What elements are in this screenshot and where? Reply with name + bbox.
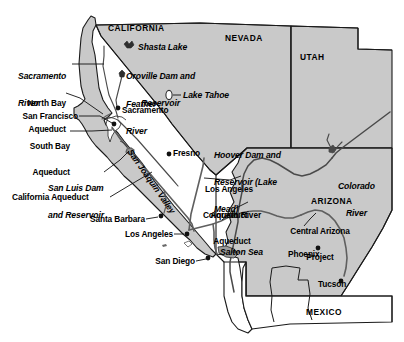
feature-label-lake-tahoe: Lake Tahoe bbox=[183, 91, 229, 100]
dot-san-francisco bbox=[112, 122, 117, 127]
dot-sacramento bbox=[116, 106, 121, 111]
city-label-san-diego: San Diego bbox=[130, 257, 195, 266]
feather-river-line bbox=[116, 76, 122, 107]
dot-santa-barbara bbox=[159, 214, 164, 219]
city-label-tucson: Tucson bbox=[318, 280, 346, 289]
map-container: CALIFORNIA NEVADA UTAH ARIZONA MEXICO Sa… bbox=[0, 0, 404, 342]
city-label-san-francisco: San Francisco bbox=[0, 112, 78, 121]
city-label-fresno: Fresno bbox=[173, 149, 200, 158]
state-label-california: CALIFORNIA bbox=[108, 24, 165, 33]
state-label-mexico: MEXICO bbox=[306, 308, 342, 317]
city-label-los-angeles: Los Angeles bbox=[100, 230, 173, 239]
aqueduct-label-colorado-river: Colorado River Aqueduct bbox=[194, 194, 270, 263]
aqueduct-label-south-bay: South Bay Aqueduct bbox=[0, 125, 70, 194]
aqueduct-label-california: California Aqueduct bbox=[12, 193, 89, 202]
feature-label-shasta-lake: Shasta Lake bbox=[138, 43, 187, 52]
channel-islands-icon-2 bbox=[184, 241, 192, 247]
feature-label-feather-river: Feather River bbox=[126, 82, 156, 154]
channel-islands-icon-1 bbox=[162, 244, 167, 247]
utah-shape bbox=[291, 26, 392, 148]
state-label-utah: UTAH bbox=[300, 53, 325, 62]
leader-santa-barbara bbox=[146, 217, 158, 219]
city-label-santa-barbara: Santa Barbara bbox=[60, 215, 145, 224]
utah-notch-line bbox=[358, 28, 392, 50]
oroville-reservoir-icon bbox=[119, 70, 125, 77]
city-label-phoenix: Phoenix bbox=[288, 250, 320, 259]
project-label-central-arizona: Central Arizona Project bbox=[280, 210, 360, 279]
state-label-nevada: NEVADA bbox=[225, 34, 263, 43]
dot-fresno bbox=[167, 152, 172, 157]
dot-los-angeles bbox=[185, 232, 190, 237]
city-label-sacramento: Sacramento bbox=[122, 106, 169, 115]
